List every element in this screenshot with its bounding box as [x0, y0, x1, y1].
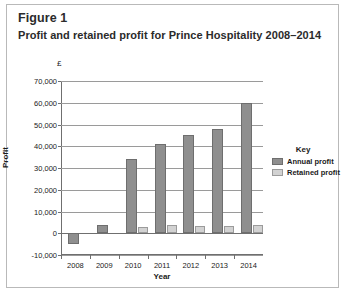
legend-item-annual-profit: Annual profit: [272, 157, 342, 166]
currency-symbol-label: £: [57, 59, 61, 68]
figure-card: Figure 1 Profit and retained profit for …: [6, 4, 339, 288]
x-tick-mark: [148, 255, 149, 259]
x-tick-mark: [176, 255, 177, 259]
bar-chart: £ Profit 70,00060,00050,00040,00030,0002…: [7, 5, 340, 289]
x-tick-label: 2011: [142, 261, 182, 270]
y-tick-mark: [58, 255, 61, 256]
y-tick-label: 70,000: [9, 77, 57, 86]
x-tick-mark: [61, 255, 62, 259]
legend-swatch-retained-profit: [272, 169, 283, 176]
x-tick-label: 2013: [200, 261, 240, 270]
legend-label-retained-profit: Retained profit: [287, 168, 340, 177]
y-tick-label: 40,000: [9, 142, 57, 151]
x-tick-mark: [90, 255, 91, 259]
x-tick-mark: [119, 255, 120, 259]
x-tick-label: 2010: [113, 261, 153, 270]
legend-swatch-annual-profit: [272, 158, 283, 165]
x-tick-mark: [234, 255, 235, 259]
legend-label-annual-profit: Annual profit: [287, 157, 334, 166]
y-tick-label: -10,000: [9, 251, 57, 260]
y-tick-label: 50,000: [9, 120, 57, 129]
x-tick-label: 2012: [171, 261, 211, 270]
chart-legend: Key Annual profit Retained profit: [272, 145, 342, 179]
gridline: [61, 255, 263, 256]
y-tick-label: 30,000: [9, 164, 57, 173]
x-tick-label: 2009: [84, 261, 124, 270]
x-axis-title: Year: [61, 272, 263, 281]
y-tick-label: 10,000: [9, 207, 57, 216]
y-tick-label: 20,000: [9, 185, 57, 194]
y-tick-label: 0: [9, 229, 57, 238]
plot-area: [61, 81, 263, 255]
x-tick-label: 2008: [55, 261, 95, 270]
y-axis-title: Profit: [1, 147, 10, 168]
legend-item-retained-profit: Retained profit: [272, 168, 342, 177]
y-tick-label: 60,000: [9, 98, 57, 107]
x-tick-mark: [205, 255, 206, 259]
x-tick-label: 2014: [229, 261, 269, 270]
legend-title: Key: [272, 145, 334, 154]
